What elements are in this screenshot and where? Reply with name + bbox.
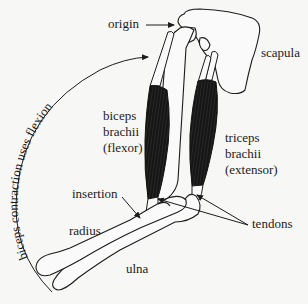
scapula-bone xyxy=(175,9,260,94)
triceps-upper-tendon xyxy=(198,51,218,82)
insertion-pointer xyxy=(122,197,140,218)
arm-muscle-diagram: biceps contraction uses flexion origin s… xyxy=(0,0,308,304)
label-ulna: ulna xyxy=(126,261,148,277)
forearm-bones xyxy=(36,194,200,290)
biceps-line-2: brachii xyxy=(103,124,143,140)
label-scapula: scapula xyxy=(261,45,300,61)
label-triceps-brachii: triceps brachii (extensor) xyxy=(225,130,278,178)
label-insertion: insertion xyxy=(72,186,118,202)
triceps-line-2: brachii xyxy=(225,146,278,162)
label-radius: radius xyxy=(69,223,101,239)
arc-caption: biceps contraction uses flexion xyxy=(6,99,56,262)
radius-bone xyxy=(36,196,186,275)
label-origin: origin xyxy=(108,16,139,32)
triceps-line-3: (extensor) xyxy=(225,162,278,178)
triceps-muscle xyxy=(190,80,218,186)
label-biceps-brachii: biceps brachii (flexor) xyxy=(103,108,143,156)
triceps-line-1: triceps xyxy=(225,130,278,146)
biceps-line-3: (flexor) xyxy=(103,140,143,156)
label-tendons: tendons xyxy=(252,216,292,232)
biceps-line-1: biceps xyxy=(103,108,143,124)
